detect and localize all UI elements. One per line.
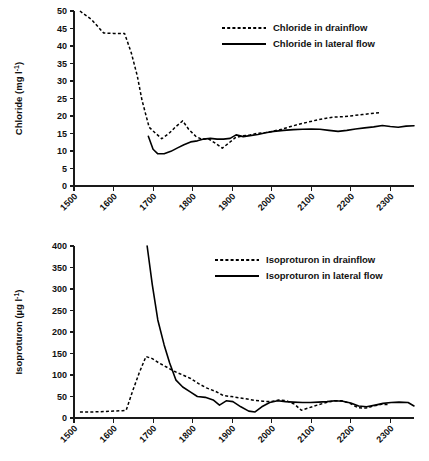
isoproturon-x-tick-label: 2100 (295, 423, 316, 444)
isoproturon-y-tick-label: 400 (52, 241, 67, 251)
isoproturon-x-tick-label: 1800 (177, 423, 198, 444)
isoproturon-y-tick-label: 50 (57, 392, 67, 402)
chloride-x-tick-label: 2000 (256, 191, 277, 212)
isoproturon-legend-label: Isoproturon in lateral flow (266, 270, 383, 281)
chloride-x-tick-label: 1500 (58, 191, 79, 212)
chloride-x-tick-label: 1700 (137, 191, 158, 212)
chloride-y-tick-label: 50 (57, 6, 67, 16)
isoproturon-x-tick-label: 2200 (335, 423, 356, 444)
chloride-x-tick-label: 1800 (177, 191, 198, 212)
isoproturon-y-tick-label: 200 (52, 327, 67, 337)
isoproturon-y-tick-label: 250 (52, 306, 67, 316)
chloride-x-tick-label: 2300 (374, 191, 395, 212)
isoproturon-y-axis-title: Isoproturon (µg l-1) (13, 289, 25, 374)
chloride-y-tick-label: 40 (57, 41, 67, 51)
isoproturon-y-tick-label: 100 (52, 370, 67, 380)
isoproturon-y-tick-label: 150 (52, 349, 67, 359)
isoproturon-x-tick-label: 1900 (216, 423, 237, 444)
chloride-y-tick-label: 15 (57, 129, 67, 139)
isoproturon-y-tick-label: 0 (62, 413, 67, 423)
isoproturon-x-tick-label: 1600 (98, 423, 119, 444)
chloride-plot-area: 0510152025303540455015001600170018001900… (13, 6, 415, 212)
isoproturon-x-tick-label: 2000 (256, 423, 277, 444)
chloride-legend-label: Chloride in drainflow (273, 22, 368, 33)
isoproturon-legend-label: Isoproturon in drainflow (266, 254, 376, 265)
isoproturon-y-tick-label: 300 (52, 284, 67, 294)
chloride-y-tick-label: 45 (57, 24, 67, 34)
chloride-y-tick-label: 35 (57, 59, 67, 69)
chloride-chart-panel: 0510152025303540455015001600170018001900… (0, 0, 429, 230)
isoproturon-x-tick-label: 1700 (137, 423, 158, 444)
chloride-x-tick-label: 2100 (295, 191, 316, 212)
chloride-y-tick-label: 5 (62, 164, 67, 174)
chloride-y-tick-label: 10 (57, 146, 67, 156)
isoproturon-y-tick-label: 350 (52, 263, 67, 273)
isoproturon-x-tick-label: 2300 (374, 423, 395, 444)
chloride-legend-label: Chloride in lateral flow (273, 38, 375, 49)
chloride-y-tick-label: 0 (62, 181, 67, 191)
chloride-y-tick-label: 30 (57, 76, 67, 86)
isoproturon-x-tick-label: 1500 (58, 423, 79, 444)
chloride-y-tick-label: 20 (57, 111, 67, 121)
isoproturon-plot-area: 0501001502002503003504001500160017001800… (13, 241, 415, 444)
chloride-x-tick-label: 1900 (216, 191, 237, 212)
chloride-y-tick-label: 25 (57, 94, 67, 104)
chloride-y-axis-title: Chloride (mg l-1) (13, 62, 25, 135)
isoproturon-chart-panel: 0501001502002503003504001500160017001800… (0, 230, 429, 461)
chloride-chart-svg: 0510152025303540455015001600170018001900… (0, 0, 429, 230)
chloride-x-tick-label: 1600 (98, 191, 119, 212)
isoproturon-chart-svg: 0501001502002503003504001500160017001800… (0, 230, 429, 461)
chloride-x-tick-label: 2200 (335, 191, 356, 212)
